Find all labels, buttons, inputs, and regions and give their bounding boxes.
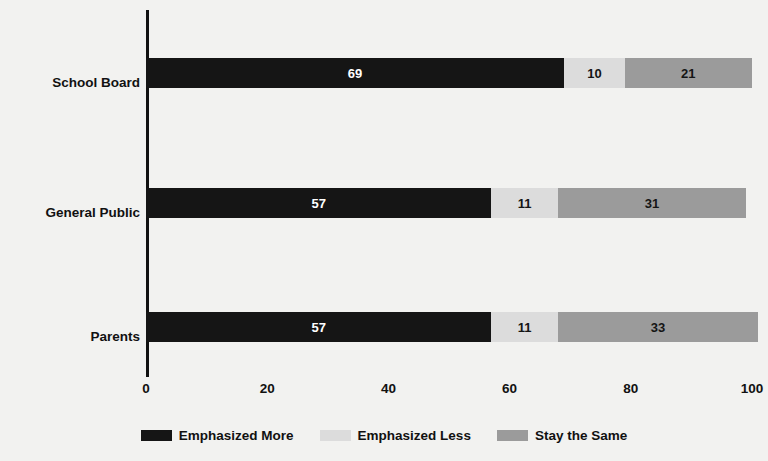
plot-area: 69 10 21 57 11 31 57 11 33 bbox=[146, 10, 752, 377]
legend-swatch-icon bbox=[320, 430, 351, 441]
x-axis-tick-label: 60 bbox=[502, 381, 517, 396]
legend-item-label: Stay the Same bbox=[535, 428, 627, 443]
category-label-school-board: School Board bbox=[4, 68, 140, 98]
bar-segment-stay-the-same: 21 bbox=[625, 58, 752, 88]
bar-segment-stay-the-same: 33 bbox=[558, 312, 758, 342]
bar-row: 57 11 31 bbox=[146, 188, 746, 218]
x-axis: 020406080100 bbox=[146, 377, 766, 407]
x-axis-tick-label: 20 bbox=[260, 381, 275, 396]
legend-item[interactable]: Emphasized Less bbox=[320, 428, 471, 443]
category-axis-labels: School Board General Public Parents bbox=[0, 10, 140, 377]
legend-item-label: Emphasized More bbox=[179, 428, 294, 443]
x-axis-tick-mark bbox=[146, 367, 148, 377]
bar-segment-emphasized-more: 57 bbox=[146, 188, 491, 218]
x-axis-tick-label: 80 bbox=[623, 381, 638, 396]
bar-segment-emphasized-less: 11 bbox=[491, 312, 558, 342]
bar-row: 57 11 33 bbox=[146, 312, 758, 342]
bar-segment-stay-the-same: 31 bbox=[558, 188, 746, 218]
x-axis-tick-label: 40 bbox=[381, 381, 396, 396]
legend-swatch-icon bbox=[141, 430, 172, 441]
category-label-general-public: General Public bbox=[4, 198, 140, 228]
bar-row: 69 10 21 bbox=[146, 58, 752, 88]
legend-item-label: Emphasized Less bbox=[358, 428, 471, 443]
legend-swatch-icon bbox=[497, 430, 528, 441]
category-label-parents: Parents bbox=[4, 322, 140, 352]
bar-segment-emphasized-more: 69 bbox=[146, 58, 564, 88]
x-axis-tick-label: 0 bbox=[142, 381, 150, 396]
chart-legend: Emphasized MoreEmphasized LessStay the S… bbox=[0, 428, 768, 443]
bar-segment-emphasized-less: 10 bbox=[564, 58, 625, 88]
x-axis-tick-label: 100 bbox=[741, 381, 764, 396]
bar-segment-emphasized-more: 57 bbox=[146, 312, 491, 342]
stacked-bar-chart: School Board General Public Parents 69 1… bbox=[0, 0, 768, 461]
legend-item[interactable]: Stay the Same bbox=[497, 428, 627, 443]
bar-segment-emphasized-less: 11 bbox=[491, 188, 558, 218]
legend-item[interactable]: Emphasized More bbox=[141, 428, 294, 443]
